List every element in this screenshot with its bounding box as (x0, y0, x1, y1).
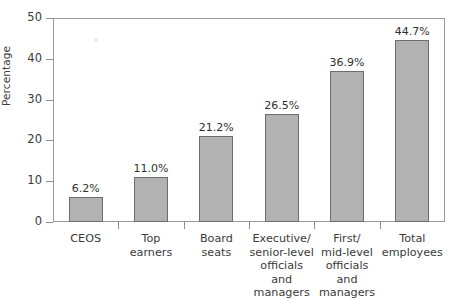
x-axis-label: Executive/ senior-level officials and ma… (249, 232, 314, 300)
bar-value-label: 21.2% (186, 121, 246, 134)
x-axis-label: Total employees (380, 232, 445, 259)
x-tick-mark (380, 222, 381, 229)
bar (395, 40, 429, 222)
bar (69, 197, 103, 222)
x-axis-label: Top earners (118, 232, 183, 259)
x-tick-mark (249, 222, 250, 229)
x-tick-mark (118, 222, 119, 229)
x-axis-label: First/ mid-level officials and managers (314, 232, 379, 300)
x-tick-mark (314, 222, 315, 229)
bar-value-label: 6.2% (56, 182, 116, 195)
bar-value-label: 26.5% (252, 99, 312, 112)
bar-value-label: 36.9% (317, 56, 377, 69)
bar (330, 71, 364, 222)
bar (265, 114, 299, 222)
bar-value-label: 44.7% (382, 25, 442, 38)
x-tick-mark (184, 222, 185, 229)
x-axis-label: CEOS (53, 232, 118, 246)
x-axis-label: Board seats (184, 232, 249, 259)
bar (134, 177, 168, 222)
bar (199, 136, 233, 222)
bar-value-label: 11.0% (121, 162, 181, 175)
